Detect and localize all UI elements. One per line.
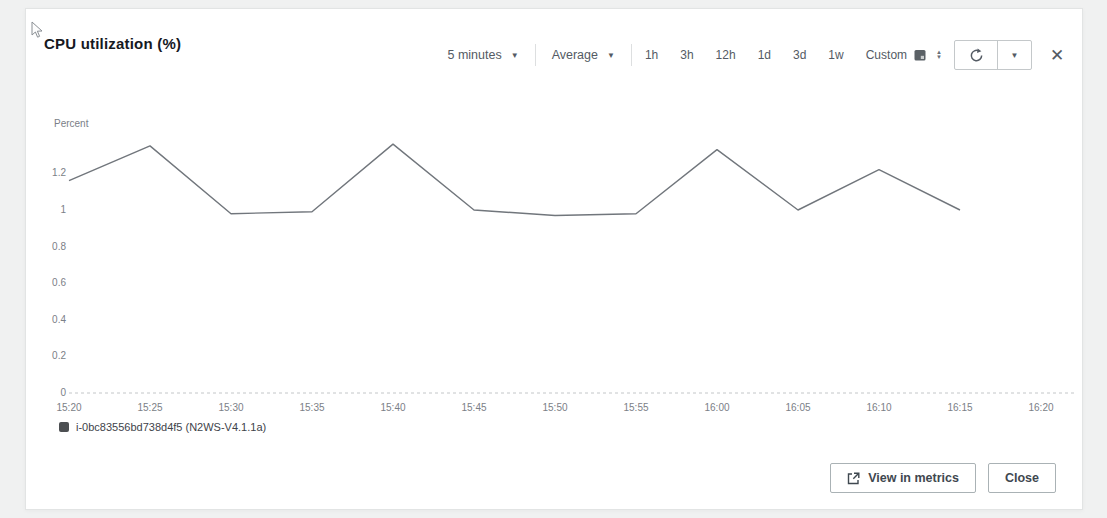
- chevron-down-icon: ▼: [511, 51, 519, 60]
- y-tick-label: 0.4: [52, 314, 66, 325]
- chevron-down-icon: ▼: [607, 51, 615, 60]
- page-title: CPU utilization (%): [44, 35, 181, 52]
- range-1h[interactable]: 1h: [634, 48, 669, 62]
- chevron-down-icon: ▼: [1011, 51, 1019, 60]
- range-3d[interactable]: 3d: [782, 48, 817, 62]
- toolbar-divider: [535, 44, 536, 66]
- refresh-options-button[interactable]: ▼: [997, 41, 1031, 69]
- cpu-utilization-chart: Percent 1.2 1 0.8 0.6 0.4 0.2 0 15:20 15…: [26, 109, 1084, 439]
- x-tick-label: 16:00: [704, 402, 729, 413]
- x-tick-label: 15:20: [56, 402, 81, 413]
- calendar-icon: [914, 49, 926, 61]
- legend-item[interactable]: i-0bc83556bd738d4f5 (N2WS-V4.1.1a): [59, 421, 266, 433]
- y-tick-label: 1: [60, 204, 66, 215]
- period-select[interactable]: 5 minutes ▼: [434, 48, 533, 62]
- close-button-label: Close: [1005, 471, 1039, 485]
- y-tick-label: 0.8: [52, 241, 66, 252]
- x-tick-label: 15:30: [218, 402, 243, 413]
- x-tick-label: 15:25: [137, 402, 162, 413]
- mouse-cursor-icon: [30, 21, 44, 39]
- statistic-select-value: Average: [552, 48, 598, 62]
- cpu-line: [69, 144, 960, 215]
- x-tick-label: 15:55: [623, 402, 648, 413]
- view-in-metrics-button[interactable]: View in metrics: [830, 463, 976, 493]
- x-tick-label: 15:35: [299, 402, 324, 413]
- stepper-down-icon: ▼: [936, 55, 942, 60]
- toolbar-divider: [631, 44, 632, 66]
- x-tick-label: 16:10: [866, 402, 891, 413]
- y-tick-label: 0.6: [52, 277, 66, 288]
- statistic-select[interactable]: Average ▼: [538, 48, 629, 62]
- close-icon[interactable]: ✕: [1046, 45, 1068, 66]
- y-tick-label: 0.2: [52, 350, 66, 361]
- x-tick-label: 16:15: [947, 402, 972, 413]
- y-axis-title: Percent: [54, 118, 89, 129]
- range-1d[interactable]: 1d: [747, 48, 782, 62]
- refresh-split-button: ▼: [954, 40, 1032, 70]
- x-tick-label: 16:20: [1028, 402, 1053, 413]
- chart-toolbar: 5 minutes ▼ Average ▼ 1h 3h 12h 1d 3d 1w…: [434, 39, 1069, 71]
- custom-range-label: Custom: [866, 48, 907, 62]
- x-tick-label: 15:50: [542, 402, 567, 413]
- x-tick-label: 16:05: [785, 402, 810, 413]
- x-tick-label: 15:45: [461, 402, 486, 413]
- external-link-icon: [847, 472, 860, 485]
- view-in-metrics-label: View in metrics: [868, 471, 959, 485]
- range-12h[interactable]: 12h: [705, 48, 747, 62]
- range-3h[interactable]: 3h: [669, 48, 704, 62]
- y-tick-label: 0: [60, 387, 66, 398]
- y-tick-label: 1.2: [52, 167, 66, 178]
- custom-range-button[interactable]: Custom: [855, 48, 934, 62]
- refresh-icon: [969, 48, 984, 63]
- legend-marker: [59, 422, 69, 432]
- period-select-value: 5 minutes: [448, 48, 502, 62]
- time-range-group: 1h 3h 12h 1d 3d 1w Custom ▲ ▼: [634, 48, 942, 62]
- metric-dialog: CPU utilization (%) 5 minutes ▼ Average …: [25, 8, 1083, 510]
- refresh-button[interactable]: [955, 41, 997, 69]
- range-1w[interactable]: 1w: [817, 48, 854, 62]
- legend-label: i-0bc83556bd738d4f5 (N2WS-V4.1.1a): [76, 421, 266, 433]
- dialog-footer: View in metrics Close: [830, 463, 1056, 493]
- x-tick-label: 15:40: [380, 402, 405, 413]
- range-stepper[interactable]: ▲ ▼: [936, 50, 942, 60]
- close-button[interactable]: Close: [988, 463, 1056, 493]
